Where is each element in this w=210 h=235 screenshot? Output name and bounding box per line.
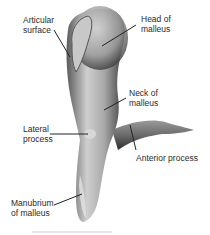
anterior-process-shape [112,120,194,150]
label-articular-surface: Articular surface [23,15,54,35]
label-head-of-malleus: Head of malleus [141,14,171,34]
label-manubrium-of-malleus: Manubrium of malleus [11,198,54,218]
label-lateral-process: Lateral process [23,124,53,144]
label-anterior-process: Anterior process [136,153,198,163]
label-neck-of-malleus: Neck of malleus [129,88,158,108]
